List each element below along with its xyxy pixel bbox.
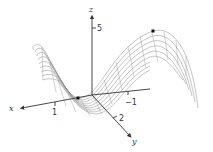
saddle-low-point — [77, 97, 80, 100]
y-axis-label: y — [131, 137, 137, 146]
x-axis-label: x — [9, 104, 14, 113]
y-tick-2 — [113, 116, 117, 118]
x-tick-label-neg1: −1 — [125, 98, 137, 107]
y-tick-label-2: 2 — [119, 114, 124, 123]
surface-plot-svg: z x y 5 1 −1 2 — [0, 0, 213, 152]
z-tick-label: 5 — [97, 24, 102, 33]
x-tick-label-1: 1 — [52, 108, 57, 117]
x-axis-negative — [92, 89, 150, 95]
z-axis-label: z — [88, 5, 94, 14]
surface-plot-figure: z x y 5 1 −1 2 — [0, 0, 213, 152]
axes — [22, 17, 150, 136]
peak-point — [152, 30, 155, 33]
surface-mesh-ribs — [42, 32, 186, 116]
